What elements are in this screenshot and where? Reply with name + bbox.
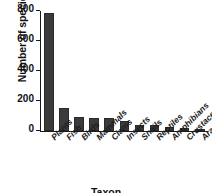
bar-slot — [147, 11, 162, 131]
y-tick-label: 400 — [17, 63, 34, 74]
bar-slot — [41, 11, 56, 131]
y-tick: 0 — [36, 130, 40, 131]
y-tick-label: 800 — [17, 3, 34, 14]
bar-chart-figure: Number of species 0200400600800 PlantsFi… — [0, 0, 212, 193]
y-tick-label: 200 — [17, 93, 34, 104]
x-tick-slot: Mammals — [86, 133, 101, 181]
x-tick-slot: Crustaceans — [177, 133, 192, 181]
y-tick-label: 600 — [17, 33, 34, 44]
y-tick: 800 — [36, 10, 40, 11]
bar-slot — [87, 11, 102, 131]
x-tick-slot: Plants — [41, 133, 56, 181]
x-tick-slot: Arachnids — [192, 133, 207, 181]
x-tick-slot: Insects — [116, 133, 131, 181]
x-tick-slot: Fish — [56, 133, 71, 181]
x-axis-title: Taxon — [0, 187, 212, 193]
x-tick-slot: Snails — [132, 133, 147, 181]
y-tick: 600 — [36, 40, 40, 41]
y-tick: 400 — [36, 70, 40, 71]
bar-slot — [56, 11, 71, 131]
y-tick-label: 0 — [28, 123, 34, 134]
y-tick: 200 — [36, 100, 40, 101]
x-axis-tick-labels: PlantsFishBirdsMammalsClamsInsectsSnails… — [41, 133, 207, 181]
x-tick-slot: Amphibians — [162, 133, 177, 181]
bar — [44, 13, 54, 131]
x-tick-slot: Reptiles — [147, 133, 162, 181]
x-tick-slot: Clams — [101, 133, 116, 181]
x-tick-slot: Birds — [71, 133, 86, 181]
bar-slot — [71, 11, 86, 131]
